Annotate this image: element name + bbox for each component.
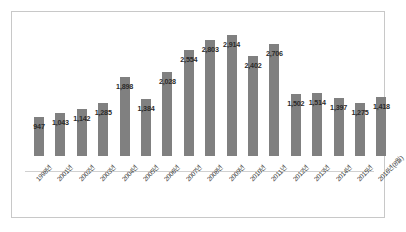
bar-group: 1,2852003년 [92, 12, 114, 217]
bar-group: 1,3842005년 [135, 12, 157, 217]
bar-group: 2,5542007년 [178, 12, 200, 217]
bar [227, 35, 237, 156]
bar-group: 9471998년 [28, 12, 50, 217]
bar [184, 50, 194, 156]
bar-group: 2,4022010년 [242, 12, 264, 217]
bar-group: 2,0282006년 [156, 12, 178, 217]
bar-group: 1,4182016년(8월) [370, 12, 392, 217]
x-axis-tick-label: 2016년(8월) [375, 153, 405, 183]
plot-area: 9471998년1,0432001년1,1422002년1,2852003년1,… [12, 12, 384, 217]
bar-value-label: 1,418 [361, 102, 401, 111]
bar-group: 1,5142013년 [306, 12, 328, 217]
bar-group: 1,2752015년 [349, 12, 371, 217]
bar-group: 2,7062011년 [263, 12, 285, 217]
bar-group: 2,9142009년 [221, 12, 243, 217]
chart-frame: 9471998년1,0432001년1,1422002년1,2852003년1,… [11, 11, 385, 218]
bar [248, 56, 258, 156]
bar-group: 1,5022012년 [285, 12, 307, 217]
bar [205, 40, 215, 156]
bar-group: 1,8982004년 [114, 12, 136, 217]
